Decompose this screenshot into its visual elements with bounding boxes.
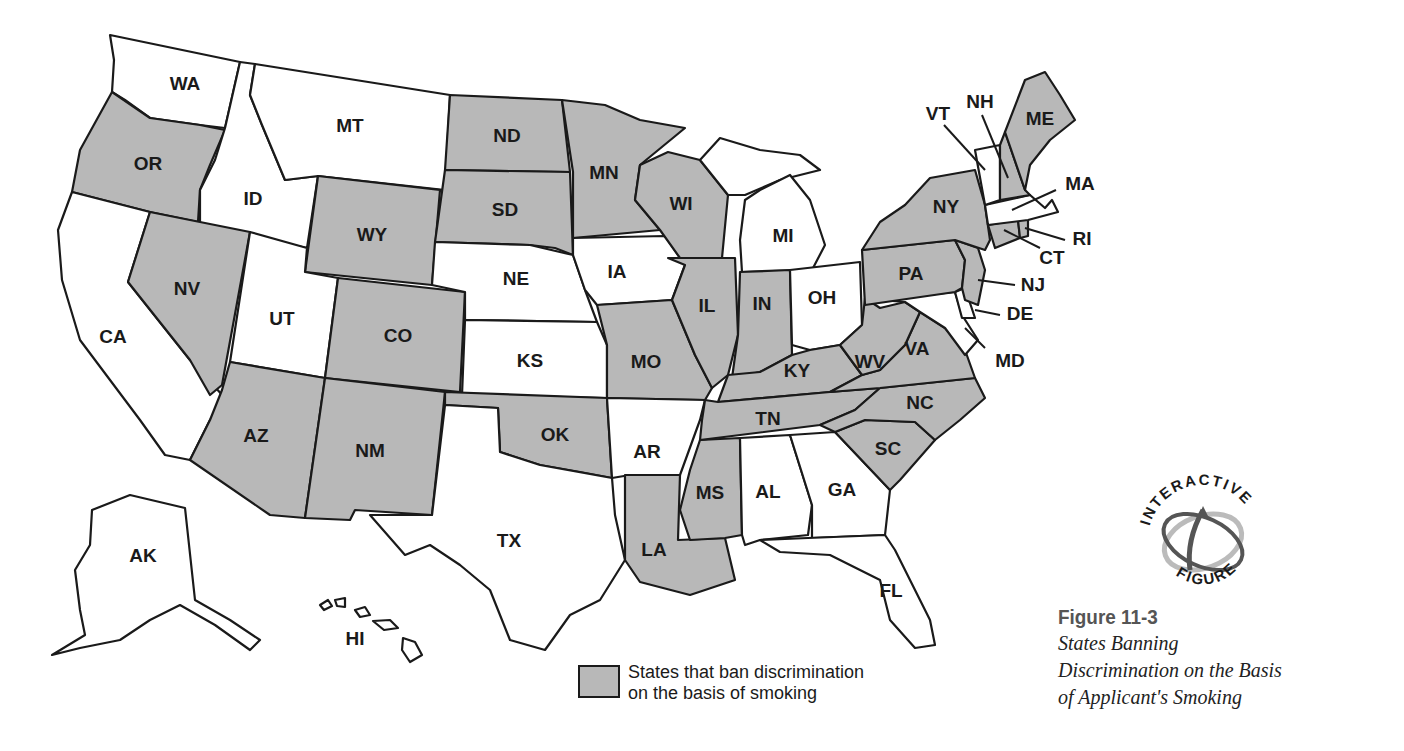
- label-AR: AR: [633, 441, 661, 462]
- label-VA: VA: [905, 338, 930, 359]
- label-OR: OR: [134, 153, 163, 174]
- figure-title-line-3: of Applicant's Smoking: [1058, 685, 1388, 710]
- label-NH: NH: [966, 91, 993, 112]
- label-AZ: AZ: [243, 425, 269, 446]
- label-NJ: NJ: [1021, 274, 1045, 295]
- figure-title-line-1: States Banning: [1058, 631, 1388, 656]
- label-FL: FL: [879, 580, 903, 601]
- leader-RI: [1025, 228, 1065, 240]
- map-legend: States that ban discrimination on the ba…: [578, 662, 864, 704]
- label-VT: VT: [926, 103, 951, 124]
- label-AL: AL: [755, 481, 781, 502]
- label-ME: ME: [1026, 108, 1055, 129]
- label-NE: NE: [503, 268, 529, 289]
- legend-label-line-1: States that ban discrimination: [628, 662, 864, 683]
- label-IN: IN: [753, 293, 772, 314]
- label-IA: IA: [608, 261, 627, 282]
- label-MS: MS: [696, 482, 725, 503]
- label-SD: SD: [492, 199, 518, 220]
- state-FL[interactable]: [760, 535, 935, 648]
- label-NM: NM: [355, 440, 385, 461]
- state-AK[interactable]: [52, 495, 260, 655]
- legend-label-line-2: on the basis of smoking: [628, 683, 864, 704]
- label-DE: DE: [1007, 303, 1033, 324]
- label-WY: WY: [357, 224, 388, 245]
- label-MO: MO: [631, 351, 662, 372]
- label-CO: CO: [384, 325, 413, 346]
- label-CT: CT: [1039, 247, 1065, 268]
- label-NY: NY: [933, 196, 960, 217]
- interactive-figure-badge[interactable]: INTERACTIVE FIGURE: [1128, 470, 1278, 600]
- label-TN: TN: [755, 408, 780, 429]
- figure-title-line-2: Discrimination on the Basis: [1058, 658, 1388, 683]
- label-LA: LA: [641, 539, 667, 560]
- label-MA: MA: [1065, 173, 1095, 194]
- label-OH: OH: [808, 287, 837, 308]
- label-MI: MI: [772, 225, 793, 246]
- label-KS: KS: [517, 350, 543, 371]
- label-TX: TX: [497, 530, 522, 551]
- state-IA[interactable]: [573, 236, 685, 305]
- badge-bottom-text: FIGURE: [1174, 558, 1240, 588]
- label-SC: SC: [875, 438, 902, 459]
- label-CA: CA: [99, 326, 127, 347]
- label-KY: KY: [784, 360, 811, 381]
- label-PA: PA: [899, 263, 924, 284]
- label-HI: HI: [346, 628, 365, 649]
- label-WI: WI: [669, 193, 692, 214]
- label-ID: ID: [244, 188, 263, 209]
- legend-swatch-banned: [578, 665, 620, 698]
- state-NY[interactable]: [862, 170, 990, 250]
- label-MN: MN: [589, 162, 619, 183]
- label-UT: UT: [269, 308, 295, 329]
- label-NC: NC: [906, 392, 934, 413]
- label-RI: RI: [1073, 228, 1092, 249]
- label-IL: IL: [699, 295, 716, 316]
- figure-number: Figure 11-3: [1058, 605, 1355, 629]
- label-ND: ND: [493, 125, 520, 146]
- state-HI[interactable]: [320, 598, 422, 662]
- label-GA: GA: [828, 479, 857, 500]
- label-OK: OK: [541, 424, 570, 445]
- label-MT: MT: [336, 115, 364, 136]
- leader-DE: [975, 310, 1000, 315]
- leader-VT: [944, 125, 985, 170]
- label-MD: MD: [995, 350, 1025, 371]
- label-WA: WA: [170, 73, 201, 94]
- label-WV: WV: [855, 351, 886, 372]
- label-AK: AK: [129, 545, 157, 566]
- figure-caption: Figure 11-3 States Banning Discriminatio…: [1058, 605, 1388, 710]
- label-NV: NV: [174, 278, 201, 299]
